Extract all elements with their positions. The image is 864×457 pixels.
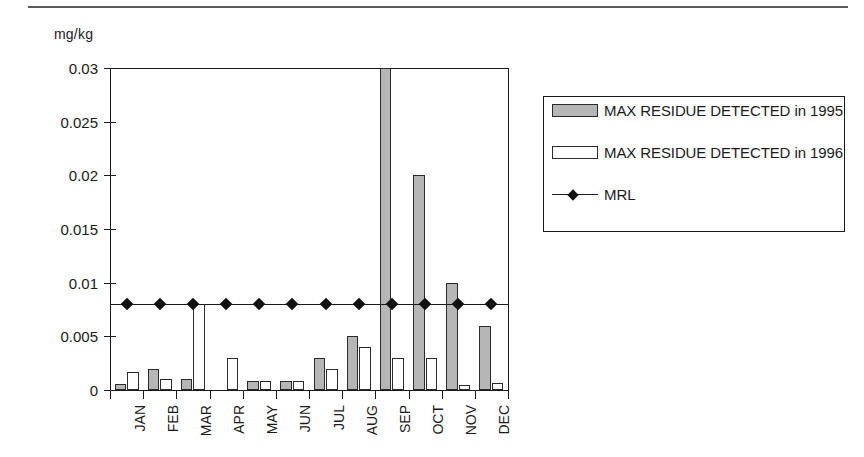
plot-border-right [508,68,509,390]
y-tick [104,336,116,337]
legend-label-1996: MAX RESIDUE DETECTED in 1996 [604,143,843,162]
bar-nov-1996 [459,385,471,390]
mrl-marker-may [253,298,266,311]
x-tick [508,390,509,399]
bar-may-1995 [247,381,259,390]
mrl-marker-jan [120,298,133,311]
y-tick-label: 0.015 [60,222,98,237]
bar-aug-1996 [359,347,371,390]
legend-swatch-mrl-line-diamond-icon [552,188,598,201]
x-label-jan: JAN [133,405,147,431]
x-label-apr: APR [232,405,246,434]
y-tick [104,122,116,123]
legend-label-mrl: MRL [604,185,635,204]
x-label-sep: SEP [398,405,412,433]
x-tick [442,390,443,399]
x-label-aug: AUG [365,405,379,435]
legend-swatch-1995-icon [552,104,598,117]
x-tick [375,390,376,399]
bar-jan-1996 [127,372,139,390]
bar-oct-1996 [426,358,438,390]
bar-dec-1995 [479,326,491,390]
bar-jul-1995 [314,358,326,390]
bar-dec-1996 [492,383,504,391]
chart-legend: MAX RESIDUE DETECTED in 1995 MAX RESIDUE… [543,96,845,232]
bar-feb-1996 [160,379,172,390]
figure-page: mg/kg 00.0050.010.0150.020.0250.03 JANFE… [0,0,864,457]
bar-apr-1996 [227,358,239,390]
x-label-nov: NOV [464,405,478,435]
legend-entry-mrl: MRL [552,185,635,204]
bar-sep-1996 [392,358,404,390]
legend-swatch-1996-icon [552,146,598,159]
y-tick-label: 0.02 [69,168,98,183]
x-label-feb: FEB [166,405,180,432]
y-tick [104,68,116,69]
x-tick [243,390,244,399]
x-tick [176,390,177,399]
residue-bar-chart: mg/kg 00.0050.010.0150.020.0250.03 JANFE… [0,0,864,457]
bar-jan-1995 [115,384,127,390]
legend-label-1995: MAX RESIDUE DETECTED in 1995 [604,101,843,120]
bar-jun-1996 [293,381,305,390]
legend-entry-1996: MAX RESIDUE DETECTED in 1996 [552,143,843,162]
y-tick-label: 0.03 [69,61,98,76]
x-tick [276,390,277,399]
x-tick [210,390,211,399]
x-tick [110,390,111,399]
x-tick [309,390,310,399]
x-label-dec: DEC [497,405,511,435]
x-label-mar: MAR [199,405,213,436]
legend-entry-1995: MAX RESIDUE DETECTED in 1995 [552,101,843,120]
bar-feb-1995 [148,369,160,390]
y-tick-label: 0 [90,383,98,398]
x-label-oct: OCT [431,405,445,435]
bar-oct-1995 [413,175,425,390]
x-tick [409,390,410,399]
x-tick [143,390,144,399]
bar-mar-1996 [193,304,205,390]
mrl-marker-apr [220,298,233,311]
x-tick [342,390,343,399]
y-tick [104,229,116,230]
mrl-line [110,304,508,305]
mrl-marker-aug [352,298,365,311]
plot-border-top [110,68,508,69]
y-axis-unit-label: mg/kg [54,26,93,42]
mrl-marker-jul [319,298,332,311]
bar-mar-1995 [181,379,193,390]
y-tick-label: 0.025 [60,114,98,129]
bar-may-1996 [260,381,272,390]
plot-area: 00.0050.010.0150.020.0250.03 JANFEBMARAP… [110,68,508,390]
bar-sep-1995 [380,68,392,390]
bar-jun-1995 [280,381,292,390]
y-tick-label: 0.005 [60,329,98,344]
mrl-marker-feb [153,298,166,311]
mrl-marker-jun [286,298,299,311]
mrl-marker-dec [485,298,498,311]
bar-jul-1996 [326,369,338,390]
x-label-jun: JUN [298,405,312,432]
y-tick [104,283,116,284]
x-label-may: MAY [265,405,279,434]
y-tick [104,175,116,176]
bar-aug-1995 [347,336,359,390]
x-tick [475,390,476,399]
x-label-jul: JUL [332,405,346,430]
y-tick-label: 0.01 [69,275,98,290]
